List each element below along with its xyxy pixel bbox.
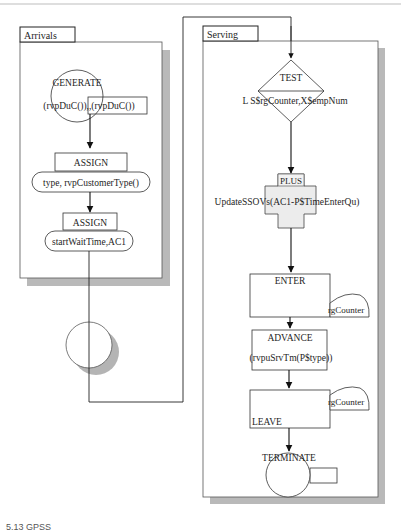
gpss-block-diagram: Arrivals GENERATE (rvpDuC()),,(rvpDuC())… [0, 0, 401, 532]
advance-block: ADVANCE (rvpuSrvTm(P$type)) [250, 330, 333, 370]
test-operand: L S$rgCounter,X$empNum [242, 96, 348, 106]
plus-operand: UpdateSSOVs(AC1-P$TimeEnterQu) [215, 197, 360, 208]
leave-operand: rgCounter [328, 397, 364, 407]
serving-segment: Serving TEST L S$rgCounter,X$empNum PLUS… [203, 26, 385, 504]
plus-label: PLUS [280, 176, 302, 186]
arrivals-title: Arrivals [24, 30, 57, 41]
assign-1-label: ASSIGN [74, 158, 108, 168]
test-label: TEST [280, 73, 303, 83]
figure-caption: 5.13 GPSS [6, 522, 51, 532]
enter-label: ENTER [275, 276, 306, 286]
terminate-label: TERMINATE [262, 453, 316, 463]
advance-label: ADVANCE [267, 333, 312, 343]
generate-label: GENERATE [52, 78, 101, 88]
generate-operand: (rvpDuC()),,(rvpDuC()) [43, 101, 134, 112]
terminate-operand-box [310, 468, 337, 483]
enter-operand: rgCounter [328, 305, 364, 315]
assign-1-operand: type, rvpCustomerType() [43, 178, 139, 189]
leave-label: LEAVE [252, 417, 282, 427]
assign-2-operand: startWaitTime,AC1 [52, 237, 126, 247]
arrivals-segment: Arrivals GENERATE (rvpDuC()),,(rvpDuC())… [20, 27, 170, 286]
serving-title: Serving [207, 29, 238, 40]
assign-2-label: ASSIGN [73, 218, 107, 228]
advance-operand: (rvpuSrvTm(P$type)) [250, 353, 333, 364]
